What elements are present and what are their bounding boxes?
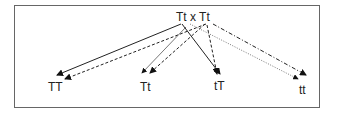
offspring-label-tT: tT (214, 80, 225, 92)
offspring-label-Tt: Tt (140, 81, 151, 93)
offspring-label-tt: tt (299, 84, 306, 96)
parent-cross-label: Tt x Tt (176, 11, 210, 23)
cross-arrows (0, 0, 337, 114)
offspring-label-TT: TT (48, 81, 63, 93)
